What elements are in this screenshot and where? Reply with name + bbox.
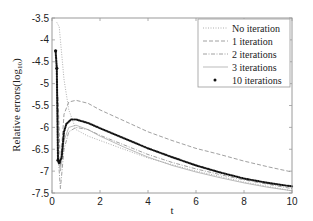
y-tick-label: -6 — [40, 122, 49, 133]
y-tick-label: -6.5 — [32, 144, 50, 155]
legend-label: 1 iteration — [232, 36, 273, 47]
chart: 0246810-3.5-4-4.5-5-5.5-6-6.5-7-7.5 t Re… — [0, 0, 313, 221]
y-tick-label: -4 — [40, 34, 49, 45]
x-tick-label: 4 — [145, 196, 151, 207]
y-tick-label: -3.5 — [32, 13, 50, 24]
legend-label: 10 iterations — [232, 75, 282, 86]
y-tick-label: -4.5 — [32, 56, 50, 67]
y-tick-label: -5.5 — [32, 100, 50, 111]
x-tick-label: 6 — [193, 196, 199, 207]
x-tick-label: 0 — [49, 196, 55, 207]
x-tick-label: 10 — [286, 196, 298, 207]
series-1-iteration — [58, 97, 292, 172]
x-axis-label: t — [170, 204, 173, 216]
y-tick-label: -7 — [40, 166, 49, 177]
y-tick-label: -5 — [40, 78, 49, 89]
x-tick-label: 8 — [241, 196, 247, 207]
legend-label: No iteration — [232, 23, 280, 34]
legend: No iteration1 iteration2 iterations3 ite… — [198, 19, 290, 87]
y-tick-label: -7.5 — [32, 188, 50, 199]
y-axis-label: Relative errors(log10) — [10, 58, 24, 152]
x-tick-label: 2 — [97, 196, 103, 207]
legend-marker-icon — [214, 79, 217, 82]
legend-label: 3 iterations — [232, 62, 277, 73]
legend-label: 2 iterations — [232, 49, 277, 60]
